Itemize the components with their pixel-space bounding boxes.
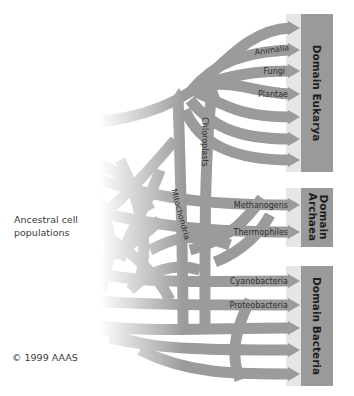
- domain-bacteria-label: Domain Bacteria: [311, 277, 323, 375]
- label-fungi: Fungi: [263, 67, 285, 76]
- ancestral-cell-label: Ancestral cell populations: [14, 213, 78, 239]
- label-proteobacteria: Proteobacteria: [230, 301, 289, 310]
- domain-archaea: Domain Archaea: [301, 188, 333, 247]
- label-methanogens: Methanogens: [234, 201, 288, 210]
- diagram-canvas: Domain Eukarya Domain Archaea Domain Bac…: [0, 0, 354, 396]
- label-plantae: Plantae: [258, 90, 288, 99]
- domain-bacteria: Domain Bacteria: [301, 266, 333, 386]
- label-thermophiles: Thermophiles: [233, 228, 288, 237]
- domain-archaea-label-line2: Archaea: [307, 193, 319, 241]
- domain-eukarya-label: Domain Eukarya: [311, 45, 323, 142]
- ancestral-cell-label-line2: populations: [14, 226, 78, 239]
- domain-eukarya: Domain Eukarya: [301, 14, 333, 172]
- tree-of-life-diagram: Domain Eukarya Domain Archaea Domain Bac…: [0, 0, 354, 396]
- label-chloroplasts: Chloroplasts: [200, 117, 209, 166]
- ancestral-cell-label-line1: Ancestral cell: [14, 213, 78, 226]
- label-cyanobacteria: Cyanobacteria: [230, 277, 288, 286]
- copyright-notice: © 1999 AAAS: [12, 352, 78, 363]
